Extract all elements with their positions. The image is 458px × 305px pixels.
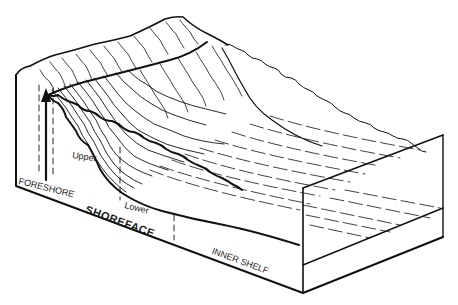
- far-edge: [225, 44, 426, 152]
- contour-lines-upper: [52, 70, 226, 192]
- arrow-up-icon: [41, 88, 51, 180]
- crest-line: [30, 17, 228, 66]
